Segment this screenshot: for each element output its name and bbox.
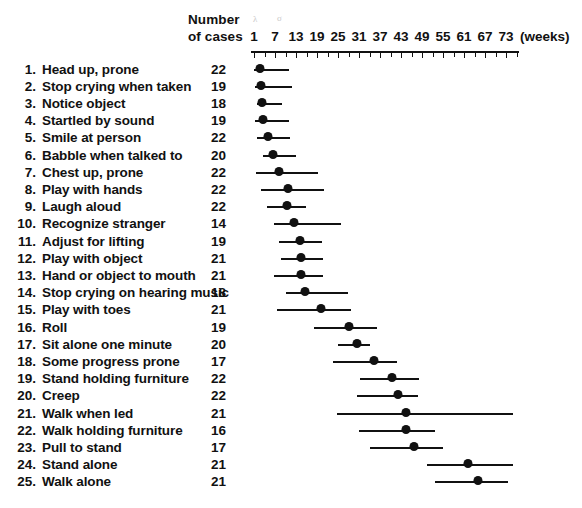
number-of-cases: 22 [198, 371, 226, 386]
axis-major-tick [296, 51, 297, 58]
row-index: 20. [10, 388, 36, 403]
median-marker [473, 476, 482, 485]
number-of-cases: 22 [198, 62, 226, 77]
axis-minor-tick [496, 51, 497, 57]
milestone-row: 25.Walk alone21 [0, 474, 582, 491]
milestone-row: 18.Some progress prone17 [0, 354, 582, 371]
axis-major-tick [380, 51, 381, 58]
median-marker [393, 390, 402, 399]
cases-header-line-1: Number [188, 12, 240, 27]
milestone-label: Stand holding furniture [42, 371, 189, 386]
milestone-label: Sit alone one minute [42, 337, 172, 352]
milestone-label: Startled by sound [42, 113, 154, 128]
axis-major-tick [275, 51, 276, 58]
milestone-label: Stand alone [42, 457, 117, 472]
row-index: 9. [10, 199, 36, 214]
axis-tick-labels: 171319253137434955616773 [0, 29, 582, 45]
axis-minor-tick [412, 51, 413, 57]
median-marker [370, 356, 379, 365]
range-line [261, 189, 324, 191]
axis-major-tick [254, 51, 255, 58]
median-marker [268, 150, 277, 159]
row-index: 24. [10, 457, 36, 472]
development-milestones-chart: Number of cases (weeks) λ σ 171319253137… [0, 0, 582, 508]
number-of-cases: 19 [198, 113, 226, 128]
milestone-label: Hand or object to mouth [42, 268, 196, 283]
median-marker [409, 442, 418, 451]
axis-tick-label: 61 [456, 29, 471, 44]
median-marker [295, 236, 304, 245]
row-index: 14. [10, 285, 36, 300]
axis-minor-tick [391, 51, 392, 57]
row-index: 25. [10, 474, 36, 489]
axis-major-tick [506, 51, 507, 58]
median-marker [255, 64, 264, 73]
milestone-row: 12.Play with object21 [0, 251, 582, 268]
axis-minor-tick [286, 51, 287, 57]
axis-tick-label: 7 [271, 29, 279, 44]
axis-tick-label: 1 [250, 29, 258, 44]
range-line [337, 413, 513, 415]
milestone-row: 3.Notice object18 [0, 96, 582, 113]
row-index: 1. [10, 62, 36, 77]
milestone-label: Play with toes [42, 302, 131, 317]
row-index: 17. [10, 337, 36, 352]
row-index: 23. [10, 440, 36, 455]
axis-minor-tick [433, 51, 434, 57]
number-of-cases: 21 [198, 268, 226, 283]
milestone-label: Recognize stranger [42, 216, 165, 231]
number-of-cases: 21 [198, 474, 226, 489]
milestone-label: Chest up, prone [42, 165, 143, 180]
median-marker [316, 304, 325, 313]
number-of-cases: 21 [198, 251, 226, 266]
scan-artifact-lambda: λ [253, 14, 257, 24]
milestone-row: 4.Startled by sound19 [0, 113, 582, 130]
axis-tick-label: 37 [372, 29, 387, 44]
range-line [257, 137, 290, 139]
milestone-label: Laugh aloud [42, 199, 121, 214]
number-of-cases: 21 [198, 302, 226, 317]
median-marker [263, 132, 272, 141]
row-index: 5. [10, 130, 36, 145]
scan-artifact-sigma: σ [277, 13, 282, 23]
row-index: 22. [10, 423, 36, 438]
number-of-cases: 19 [198, 320, 226, 335]
median-marker [259, 115, 268, 124]
milestone-row: 20.Creep22 [0, 388, 582, 405]
milestone-row: 6.Babble when talked to20 [0, 148, 582, 165]
median-marker [387, 373, 396, 382]
milestone-row: 24.Stand alone21 [0, 457, 582, 474]
row-index: 4. [10, 113, 36, 128]
axis-tick-label: 19 [309, 29, 324, 44]
number-of-cases: 20 [198, 148, 226, 163]
range-line [274, 223, 342, 225]
row-index: 11. [10, 234, 36, 249]
range-line [333, 361, 397, 363]
number-of-cases: 20 [198, 337, 226, 352]
milestone-row: 5.Smile at person22 [0, 130, 582, 147]
row-index: 10. [10, 216, 36, 231]
median-marker [401, 408, 410, 417]
median-marker [283, 184, 292, 193]
median-marker [258, 98, 267, 107]
median-marker [463, 459, 472, 468]
range-line [370, 447, 443, 449]
row-index: 2. [10, 79, 36, 94]
milestone-row: 13.Hand or object to mouth21 [0, 268, 582, 285]
number-of-cases: 22 [198, 182, 226, 197]
number-of-cases: 17 [198, 440, 226, 455]
axis-major-tick [359, 51, 360, 58]
milestone-row: 16.Roll19 [0, 320, 582, 337]
axis-tick-label: 25 [330, 29, 345, 44]
milestone-row: 11.Adjust for lifting19 [0, 234, 582, 251]
milestone-row: 10.Recognize stranger14 [0, 216, 582, 233]
median-marker [282, 201, 291, 210]
row-index: 12. [10, 251, 36, 266]
number-of-cases: 22 [198, 130, 226, 145]
row-index: 7. [10, 165, 36, 180]
number-of-cases: 21 [198, 406, 226, 421]
median-marker [296, 270, 305, 279]
axis-major-tick [422, 51, 423, 58]
median-marker [257, 81, 266, 90]
range-line [359, 430, 435, 432]
